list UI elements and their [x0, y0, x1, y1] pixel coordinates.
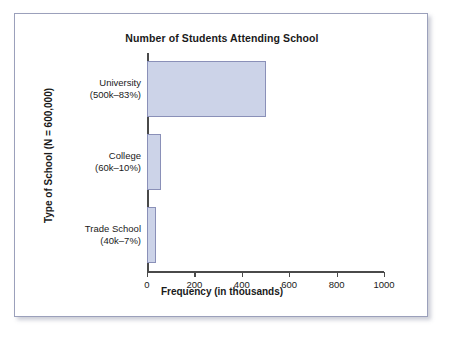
chart-figure-frame: Number of Students Attending School Univ…: [14, 13, 428, 317]
x-tick-mark-200: [194, 272, 195, 277]
category-label-college: College (60k–10%): [95, 150, 141, 174]
category-label-trade-school-detail: (40k–7%): [85, 235, 141, 247]
x-tick-mark-600: [289, 272, 290, 277]
bar-college: [147, 134, 161, 190]
category-label-trade-school: Trade School (40k–7%): [85, 223, 141, 247]
category-label-college-detail: (60k–10%): [95, 162, 141, 174]
category-label-university: University (500k–83%): [90, 77, 141, 101]
x-tick-mark-800: [337, 272, 338, 277]
category-label-trade-school-name: Trade School: [85, 223, 141, 235]
chart-plot-canvas: Number of Students Attending School Univ…: [15, 14, 429, 318]
category-label-university-detail: (500k–83%): [90, 89, 141, 101]
chart-title: Number of Students Attending School: [15, 32, 429, 44]
bar-trade-school: [147, 207, 156, 263]
x-tick-mark-0: [147, 272, 148, 277]
plot-area: 02004006008001000: [147, 53, 384, 271]
x-axis-line: [147, 271, 384, 273]
category-label-college-name: College: [95, 150, 141, 162]
x-tick-mark-400: [242, 272, 243, 277]
x-tick-mark-1000: [384, 272, 385, 277]
bar-university: [147, 61, 266, 117]
x-axis-title: Frequency (in thousands): [15, 286, 429, 297]
y-axis-title: Type of School (N = 600,000): [43, 61, 54, 251]
category-label-university-name: University: [90, 77, 141, 89]
